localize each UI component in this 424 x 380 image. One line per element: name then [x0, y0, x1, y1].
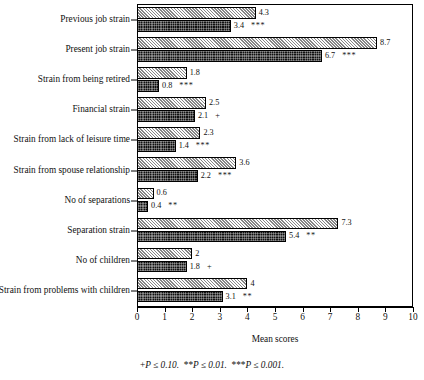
bar-value-label: 2.1+: [198, 112, 220, 120]
significance-marker: ***: [342, 51, 356, 60]
bar-group: Financial strain2.52.1+: [137, 95, 413, 125]
bar-light: 2: [137, 248, 192, 260]
x-tick-label: 6: [300, 313, 305, 322]
x-tick-label: 8: [355, 313, 360, 322]
bar-dark: 6.7***: [137, 50, 322, 62]
footnote-p1-text: P ≤ 0.10.: [145, 360, 179, 370]
category-label: No of children: [76, 256, 130, 265]
bar-value-label: 8.7: [380, 39, 390, 47]
bar-chart: Previous job strain4.33.4***Present job …: [0, 0, 424, 380]
bar-group: Strain from lack of leisure time2.31.4**…: [137, 125, 413, 155]
category-label: No of separations: [64, 196, 130, 205]
significance-marker: ***: [218, 171, 232, 180]
significance-marker: ***: [251, 21, 265, 30]
bar-dark: 0.8***: [137, 80, 159, 92]
category-label: Previous job strain: [60, 15, 130, 24]
bar-light: 7.3: [137, 218, 338, 230]
significance-marker: ***: [179, 81, 193, 90]
category-label: Strain from problems with children: [0, 286, 130, 295]
bar-value-label: 1.8+: [190, 262, 212, 270]
bar-value-label: 7.3: [341, 219, 351, 227]
significance-marker: +: [215, 111, 220, 120]
x-tick-label: 9: [383, 313, 388, 322]
category-label: Strain from being retired: [38, 76, 130, 85]
x-tick-label: 3: [217, 313, 222, 322]
bar-dark: 2.2***: [137, 170, 198, 182]
bar-value-label: 4: [250, 279, 254, 287]
bar-group: Present job strain8.76.7***: [137, 35, 413, 65]
bar-light: 2.5: [137, 97, 206, 109]
x-tick-label: 5: [273, 313, 278, 322]
bar-value-label: 2.2***: [201, 172, 232, 180]
bar-value-label: 3.4***: [234, 22, 265, 30]
bar-dark: 1.8+: [137, 261, 187, 273]
bar-value-label: 5.4**: [289, 232, 316, 240]
bar-group: Strain from being retired1.80.8***: [137, 65, 413, 95]
footnote-p2-marker: **: [184, 360, 193, 370]
bar-rows-container: Previous job strain4.33.4***Present job …: [137, 5, 413, 306]
significance-marker: ***: [196, 141, 210, 150]
bar-group: Separation strain7.35.4**: [137, 216, 413, 246]
bar-light: 4: [137, 278, 247, 290]
footnote-p2-text: P ≤ 0.01.: [193, 360, 227, 370]
bar-value-label: 3.6: [239, 159, 249, 167]
bar-light: 8.7: [137, 37, 377, 49]
bar-group: Strain from spouse relationship3.62.2***: [137, 155, 413, 185]
bar-value-label: 4.3: [259, 9, 269, 17]
footnote-p3-text: P ≤ 0.001.: [246, 360, 285, 370]
bar-group: Previous job strain4.33.4***: [137, 5, 413, 35]
bar-group: No of separations0.60.4**: [137, 186, 413, 216]
significance-marker: +: [207, 261, 212, 270]
bar-light: 1.8: [137, 67, 187, 79]
bar-value-label: 1.8: [190, 69, 200, 77]
bar-light: 0.6: [137, 188, 154, 200]
bar-dark: 3.1**: [137, 291, 223, 303]
bar-dark: 3.4***: [137, 20, 231, 32]
x-tick-label: 2: [190, 313, 195, 322]
x-tick-label: 7: [328, 313, 333, 322]
significance-marker: **: [243, 291, 252, 300]
footnote-p3-marker: ***: [232, 360, 246, 370]
significance-footnote: +P ≤ 0.10. **P ≤ 0.01. ***P ≤ 0.001.: [0, 360, 424, 370]
bar-dark: 2.1+: [137, 110, 195, 122]
category-label: Strain from spouse relationship: [14, 166, 130, 175]
bar-group: No of children21.8+: [137, 246, 413, 276]
bar-value-label: 2.5: [209, 99, 219, 107]
category-label: Strain from lack of leisure time: [14, 136, 130, 145]
bar-dark: 1.4***: [137, 140, 176, 152]
bar-value-label: 6.7***: [325, 52, 356, 60]
bar-light: 2.3: [137, 127, 200, 139]
x-tick-label: 1: [162, 313, 167, 322]
bar-light: 3.6: [137, 157, 236, 169]
x-axis-title: Mean scores: [137, 334, 413, 344]
bar-value-label: 2: [195, 249, 199, 257]
category-label: Separation strain: [67, 226, 130, 235]
bar-value-label: 0.4**: [151, 202, 178, 210]
bar-value-label: 0.8***: [162, 82, 193, 90]
bar-value-label: 1.4***: [179, 142, 210, 150]
significance-marker: **: [168, 201, 177, 210]
bar-group: Strain from problems with children43.1**: [137, 276, 413, 306]
x-tick-label: 10: [408, 313, 417, 322]
bar-dark: 0.4**: [137, 201, 148, 213]
significance-marker: **: [306, 231, 315, 240]
bar-light: 4.3: [137, 7, 256, 19]
category-label: Present job strain: [65, 45, 130, 54]
bar-value-label: 3.1**: [226, 292, 253, 300]
bar-value-label: 0.6: [157, 189, 167, 197]
bar-value-label: 2.3: [203, 129, 213, 137]
category-label: Financial strain: [72, 106, 130, 115]
x-tick-label: 0: [135, 313, 140, 322]
bar-dark: 5.4**: [137, 231, 286, 243]
x-tick-label: 4: [245, 313, 250, 322]
